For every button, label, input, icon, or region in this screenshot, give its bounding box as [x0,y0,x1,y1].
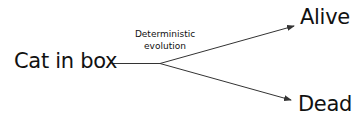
source-node-label: Cat in box [14,51,117,72]
outcome-alive-label: Alive [300,7,350,28]
outcome-dead-label: Dead [298,94,352,115]
edge-label: Deterministic evolution [133,28,197,52]
edge-label-line1: Deterministic [133,28,197,40]
edge-label-line2: evolution [133,40,197,52]
arrow-to-dead [160,64,291,101]
